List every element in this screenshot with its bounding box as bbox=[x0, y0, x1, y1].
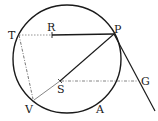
diagram-canvas: T R P S G V A bbox=[0, 0, 158, 121]
label-t: T bbox=[8, 29, 16, 42]
label-s: S bbox=[57, 83, 65, 96]
label-a: A bbox=[95, 103, 105, 116]
segment-r-p bbox=[52, 34, 114, 35]
label-r: R bbox=[47, 21, 56, 34]
label-p: P bbox=[114, 23, 122, 36]
label-v: V bbox=[24, 103, 34, 116]
segment-p-s bbox=[60, 34, 114, 81]
segment-t-v bbox=[19, 35, 33, 99]
geometry-diagram: T R P S G V A bbox=[0, 0, 158, 121]
label-g: G bbox=[141, 75, 150, 88]
circle bbox=[13, 5, 121, 113]
tangent-line bbox=[114, 34, 155, 111]
